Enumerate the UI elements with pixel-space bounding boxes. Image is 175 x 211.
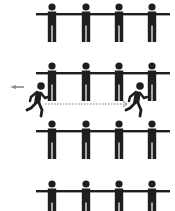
standing-person-icon <box>115 120 123 159</box>
running-person-icon <box>27 82 48 116</box>
standing-person-icon <box>82 120 90 159</box>
dotted-arrow-icon <box>45 101 127 107</box>
running-person-icon <box>126 82 147 116</box>
person-row-3 <box>36 120 170 159</box>
standing-person-icon <box>148 62 156 101</box>
diagram-svg <box>0 0 175 211</box>
person-row-2 <box>36 62 170 101</box>
standing-person-icon <box>148 3 156 42</box>
standing-person-icon <box>115 62 123 101</box>
speed-lines-icon <box>10 85 24 89</box>
person-row-1 <box>36 3 170 42</box>
diagram-canvas <box>0 0 175 211</box>
person-row-4 <box>36 180 170 211</box>
standing-person-icon <box>48 3 56 42</box>
standing-person-icon <box>148 180 156 211</box>
standing-person-icon <box>48 120 56 159</box>
standing-person-icon <box>82 3 90 42</box>
standing-person-icon <box>48 180 56 211</box>
standing-person-icon <box>115 3 123 42</box>
standing-person-icon <box>82 62 90 101</box>
standing-person-icon <box>115 180 123 211</box>
standing-person-icon <box>82 180 90 211</box>
standing-person-icon <box>48 62 56 101</box>
standing-person-icon <box>148 120 156 159</box>
